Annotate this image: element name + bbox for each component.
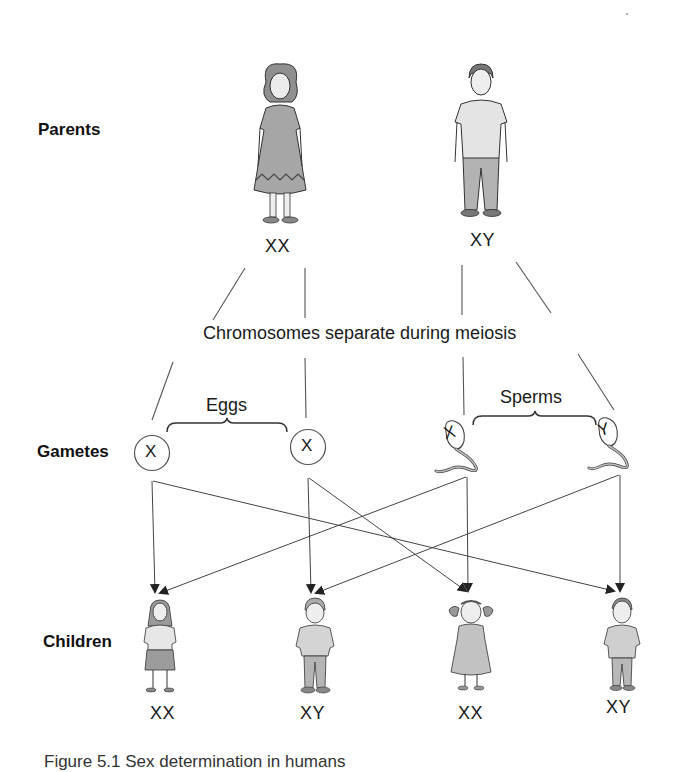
child-1-genotype: XX xyxy=(150,703,175,724)
fertilization-arrows xyxy=(152,475,620,593)
sperm-icon xyxy=(585,412,645,474)
man-figure-icon xyxy=(445,60,515,225)
egg-2-chromosome: X xyxy=(301,436,313,456)
woman-figure-icon xyxy=(240,60,320,230)
figure-caption: Figure 5.1 Sex determination in humans xyxy=(44,752,345,772)
sperms-label: Sperms xyxy=(500,387,562,408)
child-3-genotype: XX xyxy=(458,703,483,724)
meiosis-label: Chromosomes separate during meiosis xyxy=(203,323,516,344)
girl-figure-icon xyxy=(138,598,182,698)
eggs-label: Eggs xyxy=(206,395,247,416)
child-4-genotype: XY xyxy=(606,697,631,718)
row-label-children: Children xyxy=(43,632,112,652)
boy-figure-icon xyxy=(292,596,338,696)
row-label-gametes: Gametes xyxy=(37,442,109,462)
child-2-genotype: XY xyxy=(300,703,325,724)
egg-1-chromosome: X xyxy=(145,442,157,462)
girl-figure-icon xyxy=(445,596,497,694)
mother-genotype: XX xyxy=(265,236,290,257)
row-label-parents: Parents xyxy=(38,120,100,140)
eggs-brace xyxy=(167,418,287,432)
boy-figure-icon xyxy=(600,596,644,692)
father-genotype: XY xyxy=(470,230,495,251)
